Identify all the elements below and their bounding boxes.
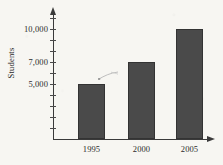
y-axis-tick	[50, 106, 56, 107]
bar-1995	[78, 84, 105, 139]
bar-2005	[176, 29, 203, 139]
x-axis-line	[53, 139, 208, 140]
y-axis-tick-label-row: 10,000	[0, 29, 48, 30]
y-axis-tick	[50, 29, 56, 30]
y-axis-tick	[50, 18, 56, 19]
y-axis-arrow-icon	[50, 7, 56, 15]
x-axis-tick-label: 2000	[120, 144, 164, 154]
y-axis-tick	[50, 128, 56, 129]
y-axis-tick	[50, 117, 56, 118]
scan-artifact-mark	[98, 71, 120, 80]
y-axis-title: Students	[6, 35, 16, 91]
y-axis-tick	[50, 51, 56, 52]
bar-2000	[128, 62, 155, 139]
y-axis-tick	[50, 73, 56, 74]
bar-chart-figure: Students 5,0007,00010,000 199520002005	[0, 0, 223, 165]
y-axis-tick	[50, 40, 56, 41]
y-axis-tick-label: 10,000	[24, 24, 48, 34]
x-axis-tick-label: 2005	[168, 144, 212, 154]
x-axis-tick-label: 1995	[70, 144, 114, 154]
y-axis-tick	[50, 84, 56, 85]
x-axis-arrow-icon	[207, 136, 215, 142]
y-axis-tick	[50, 95, 56, 96]
y-axis-tick-label-row: 5,000	[0, 84, 48, 85]
y-axis-tick-label: 5,000	[28, 79, 48, 89]
y-axis-tick-label: 7,000	[28, 57, 48, 67]
y-axis-tick	[50, 62, 56, 63]
y-axis-tick-label-row: 7,000	[0, 62, 48, 63]
y-axis-line	[53, 14, 54, 140]
